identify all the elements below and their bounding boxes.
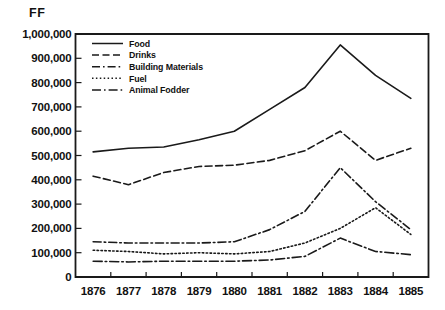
y-axis-labels: 1,000,000900,000800,000700,000600,000500… <box>22 28 71 283</box>
y-tick-label: 200,000 <box>31 222 71 234</box>
y-tick-label: 800,000 <box>31 77 71 89</box>
series-line-animal-fodder <box>93 238 411 262</box>
y-tick-label: 700,000 <box>31 101 71 113</box>
y-tick-label: 300,000 <box>31 198 71 210</box>
y-axis-unit-label: FF <box>29 6 45 20</box>
legend-label-building-materials: Building Materials <box>129 62 203 72</box>
x-axis-labels: 1876187718781879188018811882188318841885 <box>81 285 424 297</box>
x-tick-label: 1880 <box>222 285 247 297</box>
x-tick-label: 1877 <box>116 285 141 297</box>
legend-label-animal-fodder: Animal Fodder <box>129 85 190 95</box>
legend-label-food: Food <box>129 39 150 49</box>
y-tick-label: 100,000 <box>31 247 71 259</box>
y-tick-label: 400,000 <box>31 174 71 186</box>
x-tick-label: 1885 <box>398 285 424 297</box>
line-chart: FF 1,000,000900,000800,000700,000600,000… <box>0 0 445 310</box>
y-tick-label: 1,000,000 <box>22 28 71 40</box>
series-line-fuel <box>93 208 411 254</box>
series-line-building-materials <box>93 168 411 243</box>
x-tick-label: 1879 <box>187 285 212 297</box>
legend-label-drinks: Drinks <box>129 50 156 60</box>
y-tick-label: 600,000 <box>31 125 71 137</box>
x-tick-label: 1881 <box>257 285 283 297</box>
x-tick-label: 1882 <box>293 285 318 297</box>
x-tick-label: 1876 <box>81 285 106 297</box>
series-line-drinks <box>93 131 411 184</box>
x-tick-label: 1878 <box>151 285 177 297</box>
y-tick-label: 0 <box>65 271 71 283</box>
chart-legend: FoodDrinksBuilding MaterialsFuelAnimal F… <box>92 39 203 95</box>
chart-container: FF 1,000,000900,000800,000700,000600,000… <box>0 0 445 310</box>
y-tick-label: 500,000 <box>31 150 71 162</box>
x-tick-label: 1883 <box>328 285 353 297</box>
y-tick-label: 900,000 <box>31 52 71 64</box>
legend-label-fuel: Fuel <box>129 74 147 84</box>
x-tick-label: 1884 <box>363 285 389 297</box>
